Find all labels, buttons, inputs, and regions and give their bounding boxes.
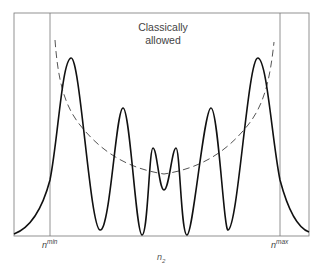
quantum-density-curve xyxy=(14,58,309,235)
nmin-label: nmin xyxy=(42,238,58,250)
classically-allowed-annotation: Classically allowed xyxy=(120,21,206,47)
nmin-superscript: min xyxy=(47,238,57,245)
nmax-superscript: max xyxy=(276,238,288,245)
annotation-line-2: allowed xyxy=(120,34,206,47)
x-axis-subscript: 2 xyxy=(162,258,165,264)
nmax-label: nmax xyxy=(271,238,288,250)
x-axis-label: n2 xyxy=(157,252,165,264)
annotation-line-1: Classically xyxy=(120,21,206,34)
